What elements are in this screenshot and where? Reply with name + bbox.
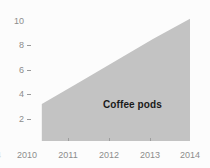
y-tick-mark-4 (27, 94, 31, 95)
area-chart: 10 8 6 4 2 4 2010 2011 2012 2013 2014 Co… (0, 0, 210, 168)
y-tick-mark-6 (27, 70, 31, 71)
x-tick-mark-2012 (109, 138, 110, 141)
x-tick-label-2012: 2012 (94, 151, 124, 160)
x-tick-label-clipped: 4 (0, 151, 6, 160)
y-tick-label-6: 6 (6, 66, 24, 75)
y-tick-label-2: 2 (6, 115, 24, 124)
y-tick-label-10: 10 (6, 17, 24, 26)
x-tick-mark-2011 (68, 138, 69, 141)
y-tick-label-8: 8 (6, 41, 24, 50)
y-tick-label-4: 4 (6, 90, 24, 99)
y-tick-mark-2 (27, 119, 31, 120)
y-tick-mark-8 (27, 45, 31, 46)
x-tick-label-2013: 2013 (135, 151, 165, 160)
x-tick-label-2010: 2010 (12, 151, 42, 160)
x-tick-label-2014: 2014 (175, 151, 205, 160)
x-tick-mark-2013 (150, 138, 151, 141)
series-annotation-coffee-pods: Coffee pods (103, 99, 162, 110)
area-series-coffee-pods (42, 19, 190, 141)
plot-area (0, 0, 210, 168)
x-tick-label-2011: 2011 (53, 151, 83, 160)
